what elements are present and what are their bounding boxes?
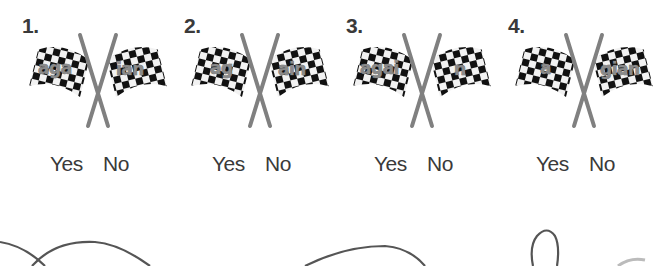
crossed-flags-icon: agai n: [352, 30, 492, 130]
word-part-left: a: [540, 60, 551, 77]
word-part-right: n: [454, 61, 466, 78]
crossed-flags-icon: a gian: [514, 30, 654, 130]
word-part-left: agai: [360, 60, 399, 77]
crossed-flags-icon: ag ain: [190, 30, 330, 130]
no-option[interactable]: No: [265, 152, 291, 176]
exercise-item-3: 3. agai n Yes No: [324, 0, 489, 200]
no-option[interactable]: No: [103, 152, 129, 176]
crossed-flags-icon: aga ian: [28, 30, 168, 130]
yes-option[interactable]: Yes: [212, 152, 245, 176]
word-part-right: ian: [116, 61, 144, 78]
exercise-item-2: 2. ag ain Yes No: [162, 0, 327, 200]
no-option[interactable]: No: [427, 152, 453, 176]
yes-option[interactable]: Yes: [374, 152, 407, 176]
word-part-right: ain: [278, 61, 306, 78]
yes-option[interactable]: Yes: [50, 152, 83, 176]
yes-option[interactable]: Yes: [536, 152, 569, 176]
exercise-item-1: 1. aga ian Yes No: [0, 0, 165, 200]
word-part-right: gian: [600, 61, 640, 78]
word-part-left: ag: [210, 60, 233, 77]
exercise-item-4: 4. a gian Yes No: [486, 0, 651, 200]
decorative-curves: [0, 200, 663, 266]
no-option[interactable]: No: [589, 152, 615, 176]
word-part-left: aga: [38, 60, 72, 77]
